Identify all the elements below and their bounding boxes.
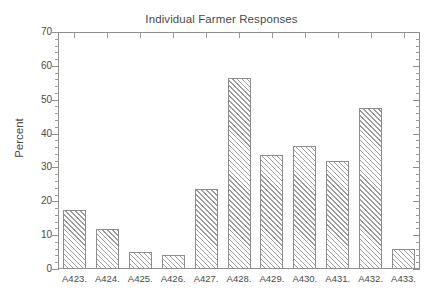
bar (195, 189, 218, 269)
bar (326, 161, 349, 269)
y-axis-tick (52, 269, 59, 270)
y-axis-tick-right (413, 269, 420, 270)
bar-chart: Individual Farmer Responses Percent 0102… (0, 0, 443, 306)
y-axis-tick-label: 60 (12, 60, 52, 71)
bar (392, 249, 415, 269)
y-axis-tick-label: 20 (12, 195, 52, 206)
y-axis-tick-label: 70 (12, 26, 52, 37)
chart-title: Individual Farmer Responses (0, 13, 443, 25)
bar (162, 255, 185, 269)
plot-area (58, 32, 420, 269)
bar (63, 210, 86, 269)
y-axis-tick-label: 30 (12, 161, 52, 172)
y-axis-tick-label: 50 (12, 94, 52, 105)
y-axis-tick-label: 40 (12, 128, 52, 139)
bar (359, 108, 382, 269)
y-axis-tick-label: 10 (12, 229, 52, 240)
bar (129, 252, 152, 269)
y-axis-tick-label: 0 (12, 263, 52, 274)
bar (260, 155, 283, 269)
x-axis-tick-label: A433. (382, 273, 426, 284)
bar (228, 78, 251, 269)
bar (96, 229, 119, 269)
bar (293, 146, 316, 269)
